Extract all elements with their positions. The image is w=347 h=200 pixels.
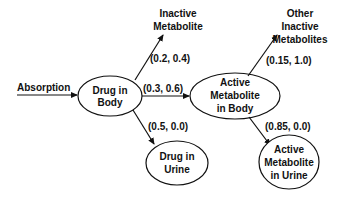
inactive-metabolite-line1: Inactive: [159, 8, 197, 19]
edge-label-active-to-other-inactive: (0.15, 1.0): [266, 55, 312, 66]
absorption-label: Absorption: [17, 82, 70, 93]
drug-in-body-line1: Drug in: [93, 85, 128, 96]
drug-in-urine-line1: Drug in: [160, 151, 195, 162]
edge-label-drug-body-to-urine: (0.5, 0.0): [148, 121, 188, 132]
drug-in-body-ellipse: [78, 76, 142, 116]
edge-label-drug-body-to-inactive: (0.2, 0.4): [150, 53, 190, 64]
active-metabolite-in-urine-line2: Metabolite: [264, 157, 314, 168]
drug-in-body-line2: Body: [98, 97, 123, 108]
other-inactive-line2: Inactive: [281, 21, 319, 32]
node-drug-in-urine: Drug in Urine: [146, 141, 208, 185]
active-metabolite-in-urine-line3: in Urine: [270, 170, 308, 181]
node-other-inactive-metabolites: Other Inactive Metabolites: [272, 8, 327, 45]
node-active-metabolite-in-urine: Active Metabolite in Urine: [259, 135, 319, 189]
other-inactive-line1: Other: [287, 8, 314, 19]
active-metabolite-in-urine-line1: Active: [274, 144, 304, 155]
drug-in-urine-line2: Urine: [164, 164, 190, 175]
active-metabolite-in-body-line1: Active: [220, 77, 250, 88]
active-metabolite-in-body-line2: Metabolite: [210, 90, 260, 101]
edge-label-drug-body-to-active: (0.3, 0.6): [143, 83, 183, 94]
node-drug-in-body: Drug in Body: [78, 76, 142, 116]
active-metabolite-in-body-line3: in Body: [217, 103, 254, 114]
node-active-metabolite-in-body: Active Metabolite in Body: [190, 73, 280, 119]
other-inactive-line3: Metabolites: [272, 34, 327, 45]
inactive-metabolite-line2: Metabolite: [153, 21, 203, 32]
drug-in-urine-ellipse: [146, 141, 208, 185]
edge-label-active-to-urine: (0.85, 0.0): [265, 121, 311, 132]
node-inactive-metabolite: Inactive Metabolite: [153, 8, 203, 32]
metabolism-flow-diagram: Absorption Drug in Body Inactive Metabol…: [0, 0, 347, 200]
